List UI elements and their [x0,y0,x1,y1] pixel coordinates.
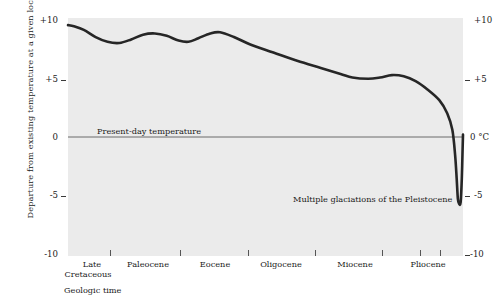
x-tick-mark-3 [248,250,249,256]
x-axis-label-late-cretaceous-line2: Cretaceous [54,270,122,280]
x-tick-mark-2 [180,250,181,256]
present-day-temperature-label: Present-day temperature [97,126,201,136]
x-axis-label-oligocene: Oligocene [246,260,316,270]
x-tick-mark-6 [420,250,421,256]
x-tick-mark-1 [110,250,111,256]
x-axis-label-pliocene: Pliocene [398,260,458,270]
temperature-curve [68,25,463,205]
x-axis-title: Geologic time [64,285,121,295]
glaciation-annotation-label: Multiple glaciations of the Pleistocene [293,194,452,204]
chart-figure: Departure from existing temperature at a… [0,0,501,302]
x-tick-mark-5 [382,250,383,256]
chart-canvas [0,0,501,302]
x-axis-label-eocene: Eocene [185,260,245,270]
x-axis-label-miocene: Miocene [325,260,385,270]
x-axis-label-paleocene: Paleocene [113,260,183,270]
x-tick-mark-7 [440,250,441,256]
x-tick-mark-4 [315,250,316,256]
